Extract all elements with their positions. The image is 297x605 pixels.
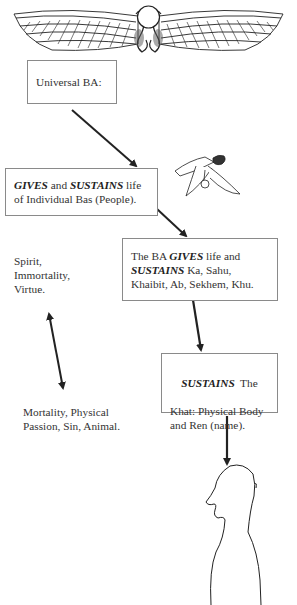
label-mortality: Mortality, Physical Passion, Sin, Animal…	[23, 405, 120, 433]
box-sustains-khat: SUSTAINS The Khat: Physical Body and Ren…	[161, 353, 278, 413]
winged-sun-disk-icon	[14, 6, 283, 52]
box-line: Khaibit, Ab, Sekhem, Khu.	[131, 277, 269, 291]
box-line: of Individual Bas (People).	[14, 192, 149, 206]
double-arrow-spirit-mortality	[49, 314, 63, 388]
ba-bird-icon	[175, 155, 240, 196]
box-line: and Ren (name).	[170, 418, 269, 432]
box-universal-ba-text: Universal BA:	[36, 76, 102, 88]
box-line: GIVES and SUSTAINS life	[14, 178, 149, 192]
box-individual-bas: GIVES and SUSTAINS life of Individual Ba…	[5, 168, 158, 216]
label-spirit: Spirit, Immortality, Virtue.	[14, 254, 70, 296]
arrow-ba-to-khat	[193, 300, 201, 350]
arrow-universal-to-individual	[72, 110, 136, 166]
box-line: The BA GIVES life and	[131, 249, 269, 263]
human-figure-icon	[206, 465, 261, 605]
box-line: SUSTAINS The	[170, 362, 269, 404]
box-ba-gives-life: The BA GIVES life and SUSTAINS Ka, Sahu,…	[122, 238, 278, 301]
box-line: SUSTAINS Ka, Sahu,	[131, 263, 269, 277]
box-universal-ba: Universal BA:	[27, 60, 117, 104]
arrow-individual-to-ba	[157, 209, 186, 236]
box-line: Khat: Physical Body	[170, 404, 269, 418]
